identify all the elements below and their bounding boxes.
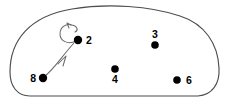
node-dot-3[interactable]	[151, 41, 159, 49]
self-loop-2-arrowhead-icon	[67, 23, 71, 28]
edge-8-to-2	[45, 43, 74, 76]
node-label-2: 2	[86, 34, 92, 46]
node-label-8: 8	[30, 72, 36, 84]
node-dot-4[interactable]	[111, 65, 119, 73]
diagram-canvas: 2 3 4 6 8	[0, 0, 225, 107]
node-label-3: 3	[152, 28, 158, 40]
node-dot-2[interactable]	[74, 36, 82, 44]
node-label-4: 4	[112, 73, 118, 85]
node-label-6: 6	[186, 74, 192, 86]
node-dot-8[interactable]	[39, 74, 47, 82]
node-dot-6[interactable]	[173, 76, 181, 84]
graph-diagram: 2 3 4 6 8	[0, 0, 225, 107]
